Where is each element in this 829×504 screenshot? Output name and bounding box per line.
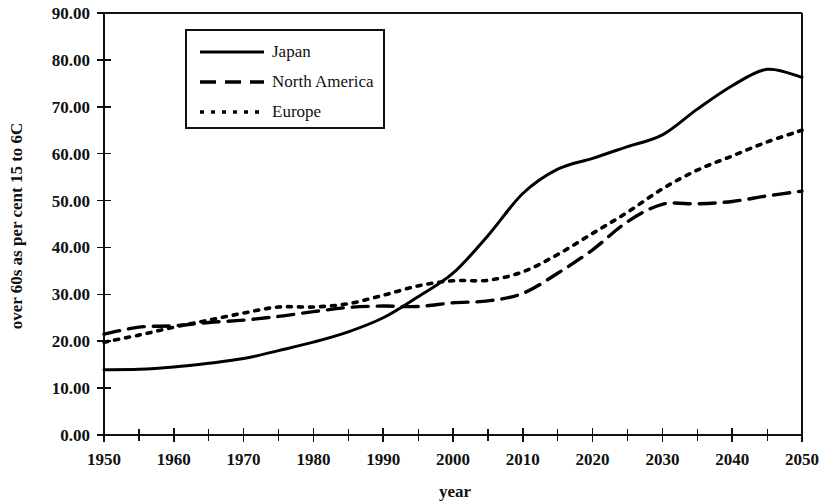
series-line-north-america — [104, 191, 802, 334]
y-tick-label: 0.00 — [60, 426, 90, 445]
x-axis: 1950196019701980199020002010202020302040… — [87, 428, 819, 469]
legend-label-europe: Europe — [272, 102, 321, 121]
y-axis: 0.0010.0020.0030.0040.0050.0060.0070.008… — [52, 4, 111, 445]
chart-figure: 0.0010.0020.0030.0040.0050.0060.0070.008… — [0, 0, 829, 504]
y-axis-title: over 60s as per cent 15 to 6C — [7, 123, 26, 330]
x-tick-label: 2020 — [576, 450, 610, 469]
x-tick-label: 2040 — [715, 450, 749, 469]
x-tick-label: 1960 — [157, 450, 191, 469]
series-line-europe — [104, 130, 802, 342]
x-tick-label: 2050 — [785, 450, 819, 469]
x-tick-label: 2030 — [645, 450, 679, 469]
line-chart: 0.0010.0020.0030.0040.0050.0060.0070.008… — [0, 0, 829, 504]
y-tick-label: 90.00 — [52, 4, 90, 23]
y-tick-label: 60.00 — [52, 145, 90, 164]
x-tick-label: 1980 — [296, 450, 330, 469]
chart-legend: JapanNorth AmericaEurope — [186, 30, 384, 128]
y-tick-label: 40.00 — [52, 238, 90, 257]
x-tick-label: 1970 — [227, 450, 261, 469]
y-tick-label: 80.00 — [52, 51, 90, 70]
y-tick-label: 10.00 — [52, 379, 90, 398]
x-axis-title: year — [439, 482, 472, 501]
legend-label-japan: Japan — [272, 42, 311, 61]
y-tick-label: 50.00 — [52, 192, 90, 211]
x-tick-label: 1950 — [87, 450, 121, 469]
x-tick-label: 1990 — [366, 450, 400, 469]
y-tick-label: 30.00 — [52, 285, 90, 304]
y-tick-label: 70.00 — [52, 98, 90, 117]
legend-label-north-america: North America — [272, 72, 374, 91]
x-tick-label: 2010 — [506, 450, 540, 469]
x-tick-label: 2000 — [436, 450, 470, 469]
y-tick-label: 20.00 — [52, 332, 90, 351]
